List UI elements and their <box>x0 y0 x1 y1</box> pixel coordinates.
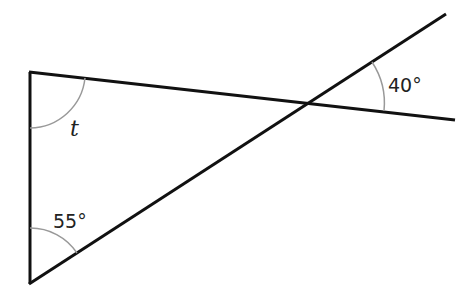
label-t: t <box>70 116 79 141</box>
label-55: 55° <box>53 210 87 232</box>
geometry-diagram: t 55° 40° <box>0 0 476 297</box>
angle-arc-40 <box>372 62 384 111</box>
diagonal-line <box>29 14 446 284</box>
label-40: 40° <box>388 74 422 96</box>
